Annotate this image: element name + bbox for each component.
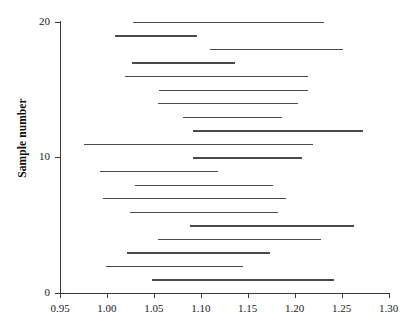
- x-tick-mark: [154, 293, 155, 298]
- interval-segment: [190, 225, 354, 226]
- interval-segment: [158, 103, 299, 104]
- interval-segment: [135, 185, 273, 186]
- x-axis-line: [60, 293, 389, 294]
- y-axis-title: Sample number: [16, 68, 28, 208]
- x-tick-mark: [295, 293, 296, 298]
- x-tick-mark: [342, 293, 343, 298]
- interval-segment: [193, 130, 363, 131]
- y-tick-label: 20: [22, 16, 50, 27]
- interval-segment: [132, 62, 235, 63]
- interval-segment: [100, 171, 217, 172]
- x-tick-mark: [107, 293, 108, 298]
- x-tick-label: 1.20: [275, 302, 315, 314]
- x-tick-mark: [389, 293, 390, 298]
- x-tick-label: 1.25: [322, 302, 362, 314]
- interval-segment: [193, 157, 302, 158]
- x-tick-mark: [201, 293, 202, 298]
- y-tick-mark: [55, 157, 61, 158]
- x-tick-label: 1.05: [134, 302, 174, 314]
- interval-segment: [103, 198, 286, 199]
- interval-segment: [84, 144, 314, 145]
- chart-figure: Sample number 01020 0.951.001.051.101.15…: [0, 0, 415, 333]
- x-tick-mark: [248, 293, 249, 298]
- x-tick-label: 1.30: [369, 302, 409, 314]
- interval-segment: [133, 22, 324, 23]
- interval-segment: [130, 212, 277, 213]
- interval-segment: [159, 90, 308, 91]
- interval-segment: [158, 239, 321, 240]
- interval-segment: [152, 279, 334, 280]
- plot-area: Sample number 01020 0.951.001.051.101.15…: [0, 0, 415, 333]
- interval-segment: [106, 266, 243, 267]
- interval-segment: [127, 252, 271, 253]
- interval-segment: [125, 76, 308, 77]
- y-tick-label: 0: [22, 287, 50, 298]
- interval-segment: [115, 35, 197, 36]
- x-tick-label: 1.10: [181, 302, 221, 314]
- interval-segment: [210, 49, 343, 50]
- y-tick-mark: [55, 22, 61, 23]
- x-tick-label: 1.15: [228, 302, 268, 314]
- y-tick-label: 10: [22, 151, 50, 162]
- x-tick-label: 1.00: [87, 302, 127, 314]
- x-tick-mark: [60, 293, 61, 298]
- x-tick-label: 0.95: [40, 302, 80, 314]
- interval-segment: [183, 117, 282, 118]
